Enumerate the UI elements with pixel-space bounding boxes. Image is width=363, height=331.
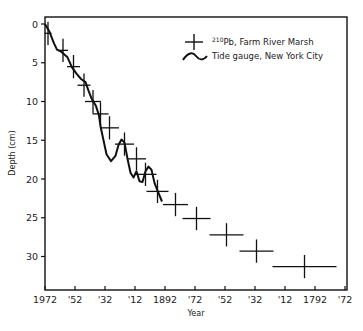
x-tick-label: 1892 — [153, 294, 177, 305]
data-point-cross — [135, 163, 157, 186]
data-point-cross — [147, 180, 169, 203]
y-tick-label: 15 — [26, 135, 38, 146]
data-point-cross — [115, 133, 134, 156]
x-tick-label: '32 — [98, 294, 113, 305]
depth-vs-year-chart: 051015202530 1972'52'32'121892'72'52'32'… — [0, 0, 363, 331]
y-tick-label: 10 — [26, 96, 38, 107]
data-point-cross — [58, 39, 68, 62]
legend-item-tide-gauge: Tide gauge, New York City — [211, 51, 323, 61]
x-tick-label: '52 — [68, 294, 83, 305]
x-tick-label: '32 — [248, 294, 263, 305]
legend-wave-icon — [183, 53, 207, 60]
x-tick-label: '12 — [128, 294, 143, 305]
x-tick-label: '72 — [338, 294, 353, 305]
y-axis-title: Depth (cm) — [8, 130, 17, 175]
data-point-cross — [85, 90, 101, 113]
data-point-cross — [210, 223, 244, 246]
x-tick-label: '72 — [188, 294, 203, 305]
chart-container: 051015202530 1972'52'32'121892'72'52'32'… — [0, 0, 363, 331]
y-tick-label: 5 — [32, 57, 38, 68]
legend: 210Pb, Farm River Marsh Tide gauge, New … — [183, 34, 323, 61]
legend-item-pb210: 210Pb, Farm River Marsh — [212, 36, 314, 47]
x-tick-label: 1792 — [303, 294, 327, 305]
x-tick-label: '52 — [218, 294, 233, 305]
y-tick-label: 25 — [26, 212, 38, 223]
y-axis: 051015202530 — [26, 19, 45, 263]
y-tick-label: 0 — [32, 19, 38, 30]
legend-cross-icon — [185, 34, 203, 50]
x-tick-label: 1972 — [33, 294, 57, 305]
x-axis: 1972'52'32'121892'72'52'32'121792'72 — [33, 286, 352, 305]
y-tick-label: 30 — [26, 251, 38, 262]
data-point-cross — [163, 193, 188, 216]
y-tick-label: 20 — [26, 174, 38, 185]
x-tick-label: '12 — [278, 294, 293, 305]
x-axis-title: Year — [187, 309, 206, 318]
data-point-cross — [240, 239, 274, 262]
data-point-cross — [183, 207, 211, 230]
data-point-cross — [273, 255, 337, 278]
